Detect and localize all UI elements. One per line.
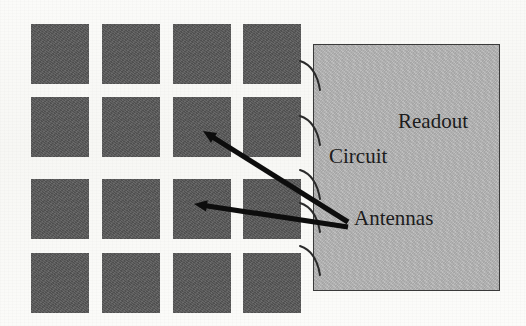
connector-1 bbox=[300, 61, 320, 90]
annotation-arrows bbox=[194, 131, 348, 227]
connectors-and-arrows-overlay bbox=[0, 0, 526, 326]
connector-4 bbox=[300, 203, 320, 232]
antenna-array-readout-diagram: Readout Circuit Antennas bbox=[0, 0, 526, 326]
connector-2 bbox=[300, 116, 320, 145]
arrow-to-antenna-lower-head bbox=[194, 200, 208, 211]
connector-5 bbox=[300, 246, 320, 275]
antenna-to-circuit-connectors bbox=[300, 61, 320, 275]
